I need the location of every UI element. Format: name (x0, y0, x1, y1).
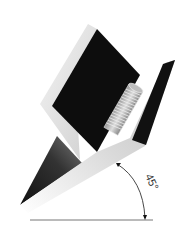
angle-arc (117, 164, 145, 218)
arrow-head-bottom (143, 215, 147, 220)
bar-end-face (132, 60, 175, 145)
angle-label: 45° (143, 172, 161, 192)
bracket-diagram: 45° (0, 0, 195, 244)
